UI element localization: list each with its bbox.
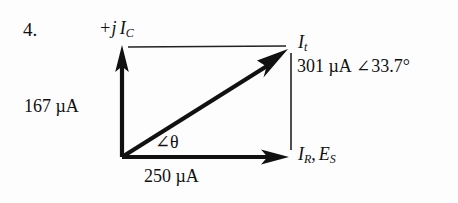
capacitive-current-magnitude: 167 µA <box>24 97 79 115</box>
real-axis-comma: , <box>311 144 316 164</box>
total-current-subscript: t <box>304 40 307 54</box>
projection-line-top <box>128 46 286 47</box>
total-current-label: It <box>298 33 307 53</box>
problem-number: 4. <box>23 20 37 39</box>
phasor-diagram-figure: 4. +jIC 167 µA 250 µA ∠θ It 301 µA∠33.7°… <box>0 0 458 203</box>
angle-symbol-icon-resultant: ∠ <box>356 57 370 76</box>
source-voltage-subscript: S <box>330 152 336 166</box>
theta-symbol: θ <box>170 132 179 152</box>
vector-total-current-arrowhead <box>257 49 288 78</box>
angle-symbol-icon: ∠ <box>155 132 170 152</box>
imaginary-axis-plus-j: +j <box>99 18 117 38</box>
angle-theta-label: ∠θ <box>155 133 179 151</box>
real-axis-label: IR,ES <box>298 145 336 165</box>
total-current-magnitude-and-angle: 301 µA∠33.7° <box>297 57 410 75</box>
total-current-magnitude-value: 301 µA <box>297 56 352 76</box>
imaginary-axis-subscript: C <box>126 26 134 40</box>
resistive-current-magnitude: 250 µA <box>144 167 199 185</box>
total-current-angle-value: 33.7° <box>371 56 410 76</box>
source-voltage-symbol: E <box>319 144 330 164</box>
imaginary-axis-label: +jIC <box>99 19 134 39</box>
vector-total-current-shaft <box>122 66 267 157</box>
